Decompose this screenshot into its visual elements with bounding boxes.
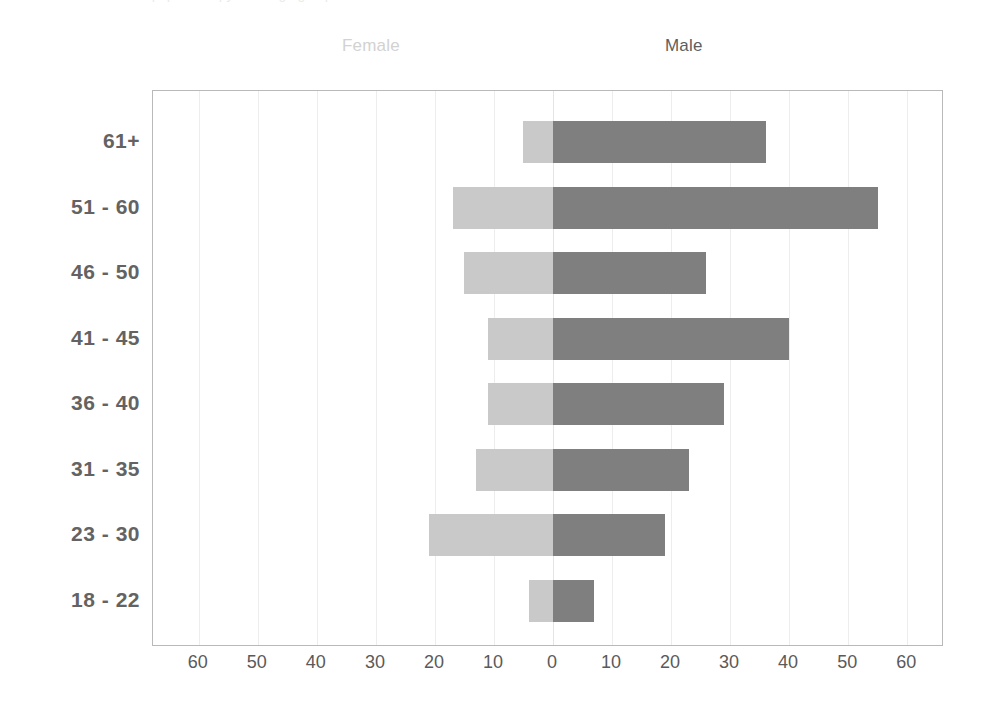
bar-male[interactable]: [553, 187, 878, 229]
y-axis-label: 23 - 30: [0, 513, 140, 555]
x-axis-tick-label: 20: [660, 652, 680, 673]
y-axis-category-labels: 61+51 - 6046 - 5041 - 4536 - 4031 - 3523…: [0, 90, 140, 646]
bar-male[interactable]: [553, 580, 594, 622]
x-axis-tick-label: 60: [188, 652, 208, 673]
y-axis-label: 31 - 35: [0, 448, 140, 490]
bar-male[interactable]: [553, 252, 706, 294]
x-axis-tick-labels: 6050403020100102030405060: [0, 652, 981, 680]
y-axis-label: 36 - 40: [0, 382, 140, 424]
bar-row: [153, 121, 942, 163]
bar-row: [153, 187, 942, 229]
x-axis-tick-label: 30: [719, 652, 739, 673]
y-axis-label: 51 - 60: [0, 186, 140, 228]
population-pyramid-chart: population pyramid age groups Female Mal…: [0, 0, 981, 728]
bar-row: [153, 580, 942, 622]
x-axis-tick-label: 60: [896, 652, 916, 673]
bar-female[interactable]: [523, 121, 553, 163]
x-axis-tick-label: 20: [424, 652, 444, 673]
bar-row: [153, 318, 942, 360]
bar-female[interactable]: [464, 252, 553, 294]
x-axis-tick-label: 10: [483, 652, 503, 673]
legend-item-female: Female: [342, 36, 400, 56]
x-axis-tick-label: 30: [365, 652, 385, 673]
bar-male[interactable]: [553, 449, 689, 491]
page-title: population pyramid age groups: [152, 0, 339, 2]
bar-row: [153, 383, 942, 425]
bar-row: [153, 514, 942, 556]
legend-item-male: Male: [665, 36, 703, 56]
y-axis-label: 41 - 45: [0, 317, 140, 359]
bar-female[interactable]: [476, 449, 553, 491]
chart-legend: Female Male: [0, 36, 981, 62]
bar-female[interactable]: [488, 383, 553, 425]
x-axis-tick-label: 50: [247, 652, 267, 673]
bar-female[interactable]: [429, 514, 553, 556]
bar-female[interactable]: [488, 318, 553, 360]
bar-male[interactable]: [553, 514, 665, 556]
x-axis-tick-label: 0: [547, 652, 557, 673]
bar-row: [153, 449, 942, 491]
bar-male[interactable]: [553, 318, 789, 360]
x-axis-tick-label: 40: [778, 652, 798, 673]
bar-female[interactable]: [453, 187, 553, 229]
x-axis-tick-label: 10: [601, 652, 621, 673]
plot-area: [152, 90, 943, 646]
bar-male[interactable]: [553, 121, 766, 163]
bar-male[interactable]: [553, 383, 724, 425]
y-axis-label: 46 - 50: [0, 251, 140, 293]
x-axis-tick-label: 50: [837, 652, 857, 673]
bar-row: [153, 252, 942, 294]
bars-layer: [153, 91, 942, 645]
y-axis-label: 18 - 22: [0, 579, 140, 621]
x-axis-tick-label: 40: [306, 652, 326, 673]
y-axis-label: 61+: [0, 120, 140, 162]
bar-female[interactable]: [529, 580, 553, 622]
